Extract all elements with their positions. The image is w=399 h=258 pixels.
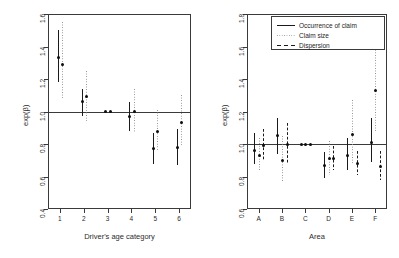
legend: Occurrence of claimClaim sizeDispersion <box>271 16 385 50</box>
legend-key-solid-icon <box>277 25 295 26</box>
x-axis-title-right: Area <box>247 233 387 241</box>
data-point-right-solid-2 <box>300 143 303 146</box>
x-tick-label-right-4: E <box>346 216 358 223</box>
data-point-right-solid-5 <box>370 141 373 144</box>
error-bar-right-dotted-4 <box>352 100 353 163</box>
legend-label-dashed: Dispersion <box>299 41 330 50</box>
y-tick-label-right-1: 0.8 <box>239 176 246 185</box>
y-tick-label-right-2: 1.0 <box>239 144 246 153</box>
x-tick-right-3 <box>329 209 330 213</box>
data-point-right-dotted-2 <box>304 143 307 146</box>
legend-label-dotted: Claim size <box>299 31 329 40</box>
data-point-right-dotted-3 <box>328 157 331 160</box>
x-tick-right-4 <box>352 209 353 213</box>
legend-item-solid: Occurrence of claim <box>272 21 384 31</box>
y-tick-label-right-6: 1.8 <box>239 14 246 23</box>
panel-right: 0.60.81.01.21.41.61.8exp(β)ABCDEFAreaOcc… <box>0 0 399 258</box>
legend-key-dotted-icon <box>277 35 295 36</box>
x-tick-label-right-3: D <box>323 216 335 223</box>
x-tick-right-0 <box>259 209 260 213</box>
x-tick-label-right-0: A <box>253 216 265 223</box>
y-tick-label-right-3: 1.2 <box>239 111 246 120</box>
legend-key-dashed-icon <box>277 45 295 46</box>
figure-container: 0.40.60.81.01.21.41.6exp(β)123456Driver'… <box>0 0 399 258</box>
x-tick-label-right-2: C <box>299 216 311 223</box>
reference-line-right <box>247 144 387 145</box>
legend-item-dashed: Dispersion <box>272 41 384 51</box>
x-tick-label-right-1: B <box>276 216 288 223</box>
error-bar-right-solid-5 <box>371 118 372 162</box>
data-point-right-dashed-2 <box>309 143 312 146</box>
data-point-right-dashed-4 <box>356 162 359 165</box>
legend-item-dotted: Claim size <box>272 31 384 41</box>
x-tick-label-right-5: F <box>369 216 381 223</box>
data-point-right-dotted-4 <box>351 133 354 136</box>
y-tick-label-right-0: 0.6 <box>239 209 246 218</box>
data-point-right-solid-3 <box>323 164 326 167</box>
data-point-right-dashed-1 <box>286 143 289 146</box>
y-axis-title-right: exp(β) <box>221 104 229 125</box>
y-tick-label-right-5: 1.6 <box>239 46 246 55</box>
x-tick-right-5 <box>375 209 376 213</box>
x-tick-right-1 <box>282 209 283 213</box>
legend-label-solid: Occurrence of claim <box>299 21 357 30</box>
error-bar-right-dotted-5 <box>375 42 376 131</box>
data-point-right-dotted-0 <box>258 154 261 157</box>
y-tick-label-right-4: 1.4 <box>239 79 246 88</box>
data-point-right-dotted-1 <box>281 159 284 162</box>
x-tick-right-2 <box>305 209 306 213</box>
